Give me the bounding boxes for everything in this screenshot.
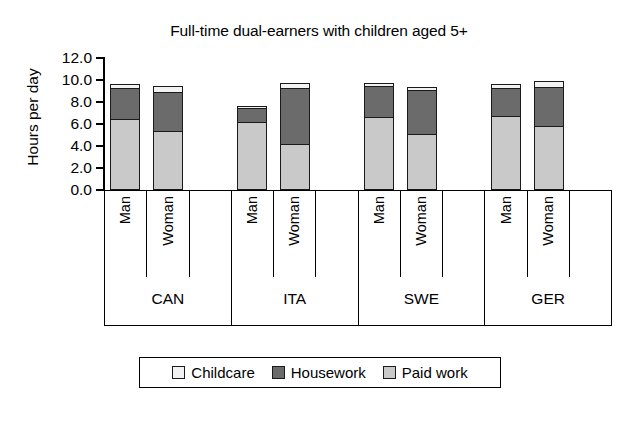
bar-swe-man — [364, 83, 394, 190]
bar-can-man — [110, 84, 140, 190]
x-cell-empty — [442, 191, 484, 277]
x-cell-woman: Woman — [400, 191, 442, 277]
x-subgroup-label: Man — [372, 196, 387, 224]
x-cell-man: Man — [359, 191, 400, 277]
bar-ger-man — [491, 84, 521, 190]
bar-segment-housework — [237, 108, 267, 122]
x-subgroup-label: Woman — [541, 196, 556, 246]
x-group-swe: ManWomanSWE — [358, 191, 485, 325]
x-group-ger: ManWomanGER — [484, 191, 611, 325]
y-tick-label: 2.0 — [36, 160, 92, 176]
bar-segment-childcare — [153, 86, 183, 93]
bar-segment-housework — [407, 90, 437, 134]
y-tick-label: 4.0 — [36, 138, 92, 154]
x-group-cells: ManWoman — [232, 191, 358, 277]
x-subgroup-label: Woman — [161, 196, 176, 246]
y-tick-label: 0.0 — [36, 182, 92, 198]
x-group-label: ITA — [232, 277, 358, 325]
bar-segment-paid-work — [237, 122, 267, 190]
x-group-can: ManWomanCAN — [105, 191, 231, 325]
legend-swatch-icon — [383, 366, 396, 379]
legend-swatch-icon — [172, 366, 185, 379]
x-cell-man: Man — [232, 191, 273, 277]
bar-segment-housework — [364, 86, 394, 118]
x-cell-empty — [569, 191, 611, 277]
bar-segment-paid-work — [491, 116, 521, 190]
bar-segment-paid-work — [153, 131, 183, 190]
bar-segment-paid-work — [280, 144, 310, 190]
x-cell-woman: Woman — [527, 191, 569, 277]
x-subgroup-label: Woman — [414, 196, 429, 246]
x-group-cells: ManWoman — [485, 191, 611, 277]
legend-item-childcare: Childcare — [172, 364, 254, 381]
legend-item-housework: Housework — [272, 364, 366, 381]
chart-figure: Full-time dual-earners with children age… — [0, 0, 638, 424]
bar-segment-housework — [153, 92, 183, 131]
x-group-label: CAN — [105, 277, 231, 325]
legend-swatch-icon — [272, 366, 285, 379]
x-cell-woman: Woman — [273, 191, 315, 277]
x-cell-empty — [315, 191, 357, 277]
bar-segment-paid-work — [407, 134, 437, 190]
bar-segment-housework — [491, 88, 521, 117]
bar-swe-woman — [407, 87, 437, 190]
legend-label: Housework — [291, 364, 366, 381]
x-cell-man: Man — [105, 191, 146, 277]
x-subgroup-label: Man — [245, 196, 260, 224]
x-subgroup-label: Man — [499, 196, 514, 224]
legend-label: Paid work — [402, 364, 468, 381]
legend-label: Childcare — [191, 364, 254, 381]
bar-segment-paid-work — [364, 117, 394, 190]
bar-ita-woman — [280, 83, 310, 190]
bar-segment-paid-work — [110, 119, 140, 191]
bar-segment-housework — [280, 88, 310, 144]
bar-can-woman — [153, 86, 183, 190]
y-tick-label: 8.0 — [36, 94, 92, 110]
x-group-cells: ManWoman — [359, 191, 485, 277]
chart-legend: ChildcareHouseworkPaid work — [139, 357, 501, 388]
x-cell-empty — [189, 191, 231, 277]
y-tick-label: 12.0 — [36, 50, 92, 66]
x-subgroup-label: Woman — [287, 196, 302, 246]
bar-ita-man — [237, 106, 267, 190]
bar-ger-woman — [534, 81, 564, 190]
x-group-cells: ManWoman — [105, 191, 231, 277]
y-tick-label: 10.0 — [36, 72, 92, 88]
x-cell-woman: Woman — [146, 191, 188, 277]
x-axis-label-grid: ManWomanCANManWomanITAManWomanSWEManWoma… — [104, 191, 612, 326]
bar-segment-housework — [110, 88, 140, 119]
x-subgroup-label: Man — [118, 196, 133, 224]
x-cell-man: Man — [485, 191, 526, 277]
legend-item-paid-work: Paid work — [383, 364, 468, 381]
bar-segment-housework — [534, 87, 564, 127]
x-group-label: SWE — [359, 277, 485, 325]
x-group-label: GER — [485, 277, 611, 325]
plot-area — [104, 58, 612, 190]
bar-segment-paid-work — [534, 126, 564, 190]
x-group-ita: ManWomanITA — [231, 191, 358, 325]
y-tick-label: 6.0 — [36, 116, 92, 132]
